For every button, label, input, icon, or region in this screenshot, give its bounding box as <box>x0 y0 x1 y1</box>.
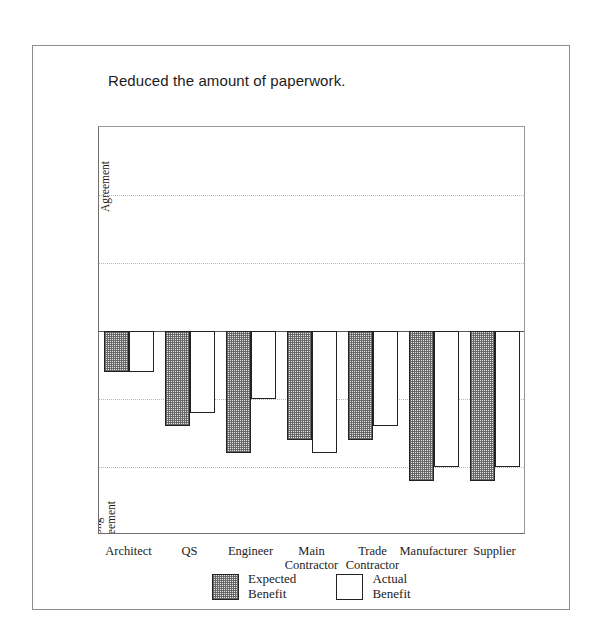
legend-swatch-expected <box>212 574 239 600</box>
y-axis-tick <box>98 331 99 332</box>
y-axis-tick <box>98 229 99 230</box>
x-axis-tick <box>374 533 375 534</box>
y-axis-tick <box>98 433 99 434</box>
y-axis-tick <box>98 365 99 366</box>
x-axis-tick <box>191 533 192 534</box>
bar-expected <box>165 331 190 426</box>
legend-label: ActualBenefit <box>372 572 410 602</box>
y-axis-tick <box>98 297 99 298</box>
bar-actual <box>373 331 398 426</box>
y-axis-tick <box>98 263 99 264</box>
bar-expected <box>226 331 251 453</box>
x-axis-category-label: TradeContractor <box>346 544 399 572</box>
bar-expected <box>287 331 312 440</box>
bar-actual <box>190 331 215 413</box>
y-axis-anchor-label: StrongDisagreement <box>98 501 119 534</box>
x-axis-tick <box>496 533 497 534</box>
y-axis-tick <box>98 399 99 400</box>
bar-expected <box>470 331 495 481</box>
legend-swatch-actual <box>336 574 363 600</box>
x-axis-category-label: QS <box>182 544 198 558</box>
x-axis-category-label: Manufacturer <box>399 544 467 558</box>
x-axis-tick <box>435 533 436 534</box>
y-axis-anchor-label: StrongAgreement <box>98 161 113 212</box>
gridline-y <box>99 467 524 468</box>
x-axis-tick <box>130 533 131 534</box>
plot-area: 3210-1-2-3StrongAgreementNeutralStrongDi… <box>98 126 525 534</box>
bar-actual <box>495 331 520 467</box>
bar-expected <box>348 331 373 440</box>
x-axis-tick <box>313 533 314 534</box>
legend-label: ExpectedBenefit <box>248 572 296 602</box>
bar-expected <box>104 331 129 372</box>
x-axis-category-label: Architect <box>105 544 152 558</box>
bar-actual <box>129 331 154 372</box>
bar-actual <box>312 331 337 453</box>
gridline-y <box>99 263 524 264</box>
bar-expected <box>409 331 434 481</box>
bar-actual <box>434 331 459 467</box>
x-axis-category-label: Supplier <box>473 544 515 558</box>
chart-legend: ExpectedBenefitActualBenefit <box>212 572 411 602</box>
legend-item: ActualBenefit <box>336 572 410 602</box>
chart-page: Reduced the amount of paperwork. 3210-1-… <box>0 0 602 642</box>
x-axis-category-label: MainContractor <box>285 544 338 572</box>
chart-title: Reduced the amount of paperwork. <box>108 72 346 89</box>
y-axis-tick <box>98 467 99 468</box>
x-axis-tick <box>252 533 253 534</box>
legend-item: ExpectedBenefit <box>212 572 296 602</box>
bar-actual <box>251 331 276 399</box>
gridline-y <box>99 195 524 196</box>
x-axis-category-label: Engineer <box>228 544 273 558</box>
y-axis-tick <box>98 127 99 128</box>
